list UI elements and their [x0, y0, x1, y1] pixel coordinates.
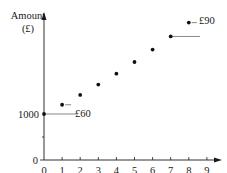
x-tick-labels: 0123456789: [41, 165, 209, 173]
x-tick-label: 2: [78, 165, 83, 173]
data-point: [96, 83, 100, 87]
y-tick-label: 0: [33, 155, 38, 166]
x-axis-arrow-icon: [214, 158, 222, 163]
data-points: [42, 21, 191, 116]
annotation-leaders: [44, 23, 200, 114]
data-point: [169, 35, 173, 39]
y-tick-label: 1000: [18, 109, 39, 120]
x-tick-label: 7: [168, 165, 173, 173]
data-point: [133, 60, 137, 64]
y-axis-label: Amount: [11, 10, 46, 21]
x-tick-label: 1: [59, 165, 64, 173]
data-point: [151, 48, 155, 52]
y-tick-labels: 01000: [18, 109, 39, 166]
axes: [44, 18, 217, 160]
data-point: [60, 103, 64, 107]
x-tick-label: 4: [114, 165, 120, 173]
annotation-label: £90: [199, 15, 215, 26]
data-point: [115, 72, 119, 76]
data-point: [187, 21, 191, 25]
data-point: [42, 112, 46, 116]
data-point: [78, 93, 82, 97]
y-ticks: [40, 137, 44, 160]
annotations: £60£90: [75, 15, 215, 119]
x-tick-label: 6: [150, 165, 155, 173]
x-tick-label: 0: [41, 165, 46, 173]
x-tick-label: 3: [96, 165, 101, 173]
x-tick-label: 5: [132, 165, 137, 173]
annotation-label: £60: [75, 108, 91, 119]
x-tick-label: 9: [204, 165, 209, 173]
y-axis-label-unit: (£): [22, 23, 35, 35]
x-tick-label: 8: [186, 165, 191, 173]
compound-growth-chart: 0123456789 01000 Amount (£) Number of ye…: [0, 0, 227, 173]
